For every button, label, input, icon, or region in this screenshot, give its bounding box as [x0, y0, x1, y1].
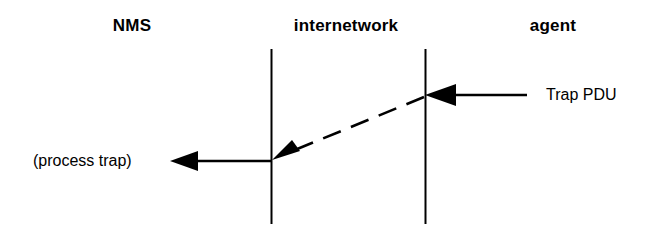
snmp-trap-diagram: NMS internetwork agent (process trap) Tr…	[0, 0, 663, 244]
arrow-process-trap-head	[170, 151, 198, 171]
arrow-trap-transit	[272, 97, 424, 160]
column-header-agent: agent	[530, 16, 576, 36]
column-header-internetwork: internetwork	[294, 16, 398, 36]
diagram-canvas	[0, 0, 663, 244]
arrow-trap-transit-head	[272, 140, 300, 160]
arrow-process-trap-out	[170, 151, 272, 171]
label-process-trap: (process trap)	[33, 152, 132, 170]
arrow-trap-pdu-in	[425, 84, 527, 106]
column-header-nms: NMS	[113, 16, 151, 36]
arrow-trap-transit-shaft	[290, 97, 424, 152]
arrow-trap-pdu-head	[425, 84, 456, 106]
label-trap-pdu: Trap PDU	[546, 86, 617, 104]
